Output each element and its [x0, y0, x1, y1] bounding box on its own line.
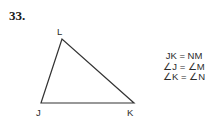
vertex-label-k: K	[127, 108, 133, 118]
congruence-line-3: ∠K = ∠N	[154, 72, 214, 83]
problem-figure-page: 33. L J K JK = NM ∠J = ∠M ∠K = ∠N	[0, 0, 220, 133]
vertex-label-j: J	[36, 108, 41, 118]
vertex-label-l: L	[57, 27, 62, 37]
congruence-statements: JK = NM ∠J = ∠M ∠K = ∠N	[154, 51, 214, 83]
congruence-line-1: JK = NM	[154, 51, 214, 62]
triangle-outline	[41, 39, 134, 103]
